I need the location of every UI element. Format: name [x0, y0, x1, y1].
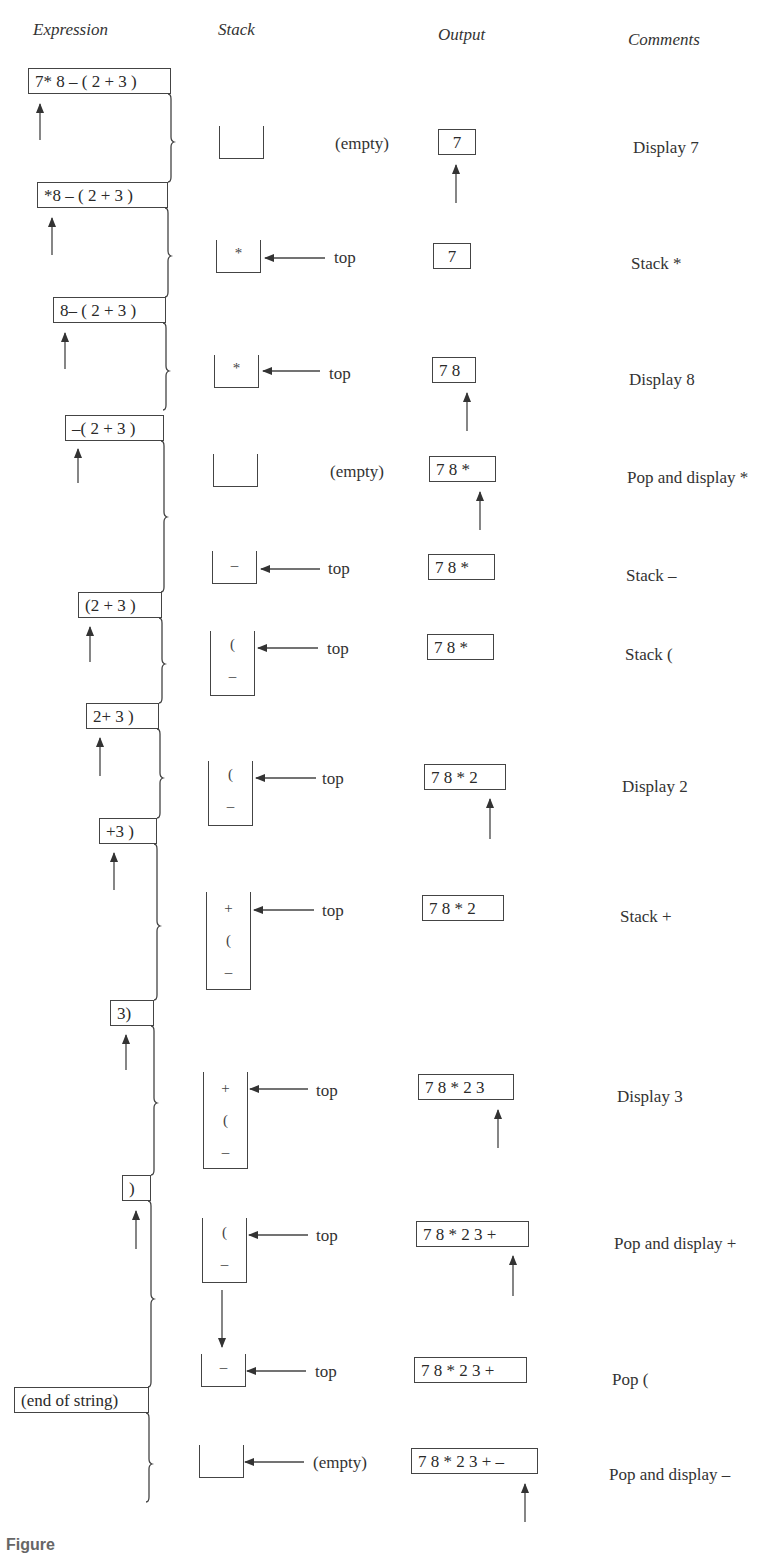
comment-text: Pop and display – [609, 1465, 730, 1485]
stack-label: (empty) [330, 462, 384, 482]
stack-diagram: + ( – [206, 892, 251, 990]
stack-label: top [316, 1081, 338, 1101]
figure-caption: Figure [6, 1536, 55, 1554]
stack-item: ( [204, 1112, 247, 1129]
stack-diagram: – [201, 1354, 246, 1387]
stack-label: top [316, 1226, 338, 1246]
stack-item: – [211, 668, 254, 685]
stack-label: (empty) [313, 1453, 367, 1473]
stack-label: top [315, 1362, 337, 1382]
comment-text: Display 3 [617, 1087, 683, 1107]
output-box: 7 8 * 2 3 + [414, 1357, 527, 1383]
stack-item: – [202, 1359, 245, 1376]
output-box: 7 8 [432, 357, 476, 383]
comment-text: Pop and display * [627, 468, 748, 488]
expression-box: 2+ 3 ) [86, 703, 159, 729]
stack-diagram: ( – [208, 761, 253, 826]
output-box: 7 8 * [429, 456, 496, 482]
output-box: 7 8 * 2 3 + [416, 1221, 529, 1247]
expression-box: ) [122, 1175, 151, 1201]
stack-item: ( [209, 766, 252, 783]
stack-diagram [213, 454, 258, 487]
stack-item: ( [203, 1224, 246, 1241]
stack-diagram: ( – [202, 1218, 247, 1283]
expression-box: 3) [110, 1000, 154, 1026]
comment-text: Pop and display + [614, 1234, 736, 1254]
stack-item: + [207, 900, 250, 917]
output-box: 7 8 * 2 3 + – [411, 1448, 538, 1474]
stack-item: * [215, 360, 258, 377]
stack-diagram: ( – [210, 631, 255, 696]
comment-text: Stack ( [625, 645, 673, 665]
header-stack: Stack [218, 20, 255, 40]
header-comments: Comments [628, 30, 700, 50]
expression-box: (end of string) [14, 1387, 149, 1413]
comment-text: Stack * [631, 254, 682, 274]
stack-diagram: * [216, 240, 261, 273]
stack-label: top [327, 639, 349, 659]
comment-text: Display 7 [633, 138, 699, 158]
expression-box: +3 ) [99, 818, 157, 844]
header-output: Output [438, 25, 485, 45]
stack-diagram: * [214, 355, 259, 388]
output-box: 7 8 * 2 3 [418, 1074, 514, 1100]
stack-item: – [209, 798, 252, 815]
stack-item: – [213, 557, 256, 574]
header-expression: Expression [33, 20, 108, 40]
output-box: 7 [433, 243, 471, 269]
stack-label: top [322, 769, 344, 789]
comment-text: Stack + [620, 907, 672, 927]
expression-box: 8– ( 2 + 3 ) [53, 297, 166, 323]
comment-text: Stack – [626, 566, 677, 586]
expression-box: (2 + 3 ) [78, 592, 162, 618]
stack-diagram: + ( – [203, 1072, 248, 1169]
expression-box: 7* 8 – ( 2 + 3 ) [28, 68, 171, 94]
stack-item: – [204, 1144, 247, 1161]
comment-text: Display 2 [622, 777, 688, 797]
comment-text: Display 8 [629, 370, 695, 390]
stack-item: – [203, 1256, 246, 1273]
stack-diagram [199, 1445, 244, 1478]
stack-label: (empty) [335, 134, 389, 154]
comment-text: Pop ( [612, 1370, 648, 1390]
expression-box: –( 2 + 3 ) [65, 415, 164, 441]
stack-diagram [219, 126, 264, 159]
stack-item: ( [211, 636, 254, 653]
stack-label: top [329, 364, 351, 384]
stack-item: ( [207, 932, 250, 949]
output-box: 7 8 * 2 [424, 764, 506, 790]
stack-label: top [328, 559, 350, 579]
stack-item: + [204, 1080, 247, 1097]
stack-diagram: – [212, 551, 257, 584]
output-box: 7 8 * [428, 554, 495, 580]
stack-label: top [334, 248, 356, 268]
output-box: 7 8 * [427, 634, 494, 660]
output-box: 7 8 * 2 [422, 895, 504, 921]
output-box: 7 [438, 129, 476, 155]
stack-item: – [207, 964, 250, 981]
expression-box: *8 – ( 2 + 3 ) [37, 182, 168, 208]
stack-label: top [322, 901, 344, 921]
stack-item: * [217, 245, 260, 262]
